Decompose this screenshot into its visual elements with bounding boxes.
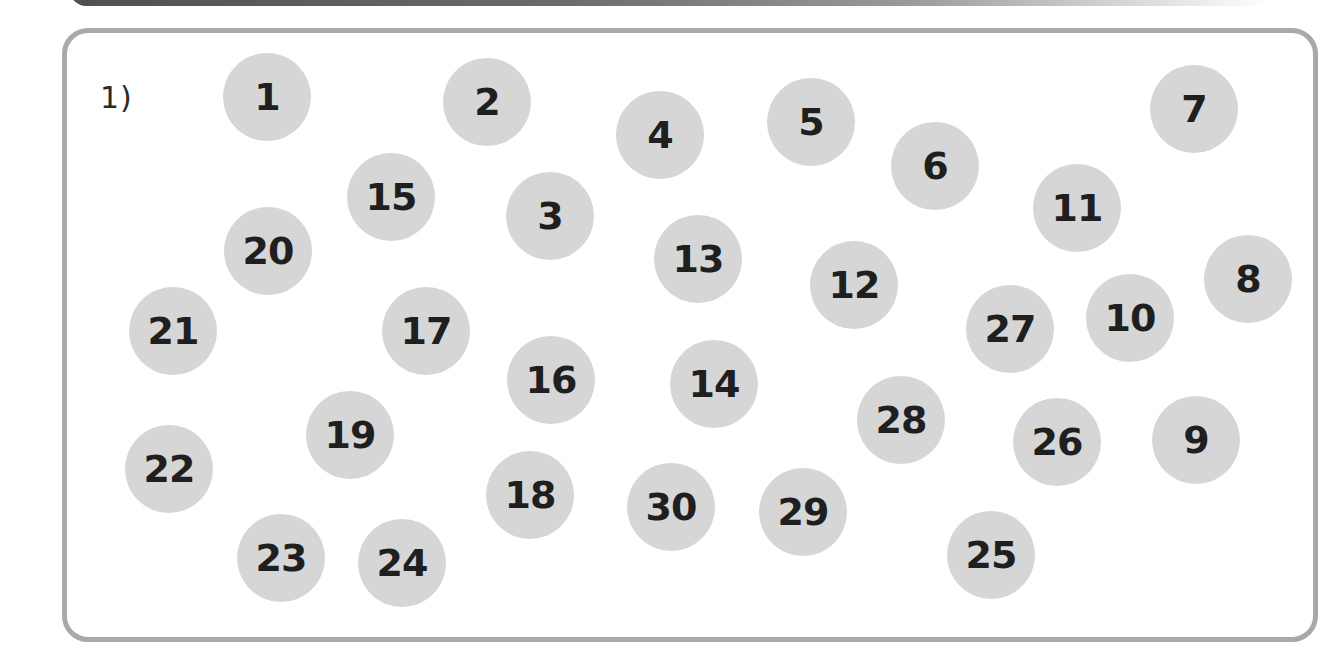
number-dot-23[interactable]: 23 [237, 514, 325, 602]
dot-number-label: 26 [1032, 420, 1083, 464]
dot-number-label: 2 [474, 80, 499, 124]
number-dot-9[interactable]: 9 [1152, 396, 1240, 484]
number-dot-3[interactable]: 3 [506, 172, 594, 260]
exercise-number-label: 1) [100, 80, 133, 115]
dot-number-label: 24 [377, 541, 428, 585]
number-dot-22[interactable]: 22 [125, 425, 213, 513]
number-dot-2[interactable]: 2 [443, 58, 531, 146]
dot-number-label: 11 [1052, 186, 1103, 230]
dot-number-label: 20 [243, 229, 294, 273]
dot-number-label: 21 [148, 309, 199, 353]
number-dot-8[interactable]: 8 [1204, 235, 1292, 323]
number-dot-27[interactable]: 27 [966, 285, 1054, 373]
dot-number-label: 13 [673, 237, 724, 281]
number-dot-11[interactable]: 11 [1033, 164, 1121, 252]
number-dot-13[interactable]: 13 [654, 215, 742, 303]
dot-number-label: 16 [526, 358, 577, 402]
dot-number-label: 19 [325, 413, 376, 457]
dot-number-label: 1 [254, 75, 279, 119]
dot-number-label: 17 [401, 309, 452, 353]
number-dot-17[interactable]: 17 [382, 287, 470, 375]
number-dot-1[interactable]: 1 [223, 53, 311, 141]
number-dot-29[interactable]: 29 [759, 468, 847, 556]
number-dot-12[interactable]: 12 [810, 241, 898, 329]
number-dot-30[interactable]: 30 [627, 463, 715, 551]
dot-number-label: 22 [144, 447, 195, 491]
number-dot-21[interactable]: 21 [129, 287, 217, 375]
number-dot-25[interactable]: 25 [947, 511, 1035, 599]
dot-number-label: 8 [1235, 257, 1260, 301]
number-dot-15[interactable]: 15 [347, 153, 435, 241]
dot-number-label: 30 [646, 485, 697, 529]
number-dot-28[interactable]: 28 [857, 376, 945, 464]
dot-number-label: 15 [366, 175, 417, 219]
dot-number-label: 12 [829, 263, 880, 307]
dot-number-label: 7 [1181, 87, 1206, 131]
dot-number-label: 23 [256, 536, 307, 580]
dot-number-label: 27 [985, 307, 1036, 351]
number-dot-5[interactable]: 5 [767, 78, 855, 166]
dot-number-label: 3 [537, 194, 562, 238]
number-dot-4[interactable]: 4 [616, 91, 704, 179]
number-dot-24[interactable]: 24 [358, 519, 446, 607]
number-dot-16[interactable]: 16 [507, 336, 595, 424]
number-dot-26[interactable]: 26 [1013, 398, 1101, 486]
number-dot-19[interactable]: 19 [306, 391, 394, 479]
dot-number-label: 14 [689, 362, 740, 406]
number-dot-6[interactable]: 6 [891, 122, 979, 210]
number-dot-7[interactable]: 7 [1150, 65, 1238, 153]
dot-number-label: 25 [966, 533, 1017, 577]
number-dot-20[interactable]: 20 [224, 207, 312, 295]
dot-number-label: 6 [922, 144, 947, 188]
dot-number-label: 9 [1183, 418, 1208, 462]
dot-number-label: 18 [505, 473, 556, 517]
dot-number-label: 5 [798, 100, 823, 144]
dot-number-label: 29 [778, 490, 829, 534]
number-dot-10[interactable]: 10 [1086, 274, 1174, 362]
dot-number-label: 4 [647, 113, 672, 157]
top-decorative-bar [70, 0, 1270, 6]
number-dot-14[interactable]: 14 [670, 340, 758, 428]
dot-number-label: 28 [876, 398, 927, 442]
dot-number-label: 10 [1105, 296, 1156, 340]
number-dot-18[interactable]: 18 [486, 451, 574, 539]
